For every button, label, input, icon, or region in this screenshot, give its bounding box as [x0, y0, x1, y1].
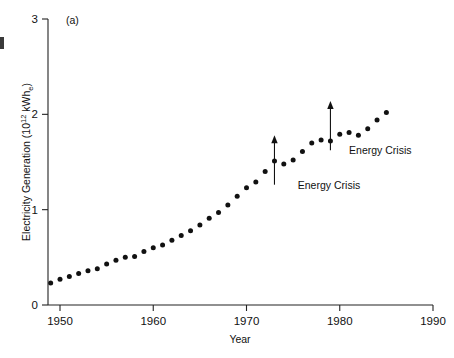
x-tick-label: 1970 — [234, 315, 260, 327]
data-point — [356, 133, 361, 138]
data-point — [188, 228, 193, 233]
data-point — [291, 158, 296, 163]
data-point — [253, 180, 258, 185]
data-point — [197, 222, 202, 227]
x-tick-label: 1980 — [327, 315, 353, 327]
data-point — [179, 233, 184, 238]
x-tick-label: 1960 — [140, 315, 166, 327]
data-point — [151, 245, 156, 250]
x-tick-label: 1990 — [420, 315, 446, 327]
data-point — [281, 161, 286, 166]
data-point — [141, 249, 146, 254]
data-point — [95, 266, 100, 271]
panel-label: (a) — [66, 14, 79, 26]
data-point — [235, 194, 240, 199]
scatter-chart: 0123 19501960197019801990 Electricity Ge… — [0, 0, 454, 358]
data-point — [244, 185, 249, 190]
y-tick-label: 2 — [32, 108, 38, 120]
x-tick-label: 1950 — [47, 315, 73, 327]
data-point — [263, 169, 268, 174]
data-point — [216, 210, 221, 215]
data-point — [48, 281, 53, 286]
data-point — [160, 242, 165, 247]
data-point — [319, 138, 324, 143]
y-tick-label: 1 — [32, 204, 38, 216]
data-point — [169, 238, 174, 243]
y-tick-label: 3 — [32, 13, 38, 25]
data-point — [337, 132, 342, 137]
x-axis-title: Year — [229, 333, 251, 345]
data-point — [375, 118, 380, 123]
data-point — [300, 149, 305, 154]
annotation-label: Energy Crisis — [349, 144, 411, 156]
y-tick-label: 0 — [32, 299, 38, 311]
data-point — [207, 216, 212, 221]
data-point — [58, 277, 63, 282]
data-point — [104, 262, 109, 267]
data-point — [113, 258, 118, 263]
page-edge-mark — [0, 37, 4, 49]
data-point — [132, 254, 137, 259]
data-point — [67, 274, 72, 279]
data-point — [365, 126, 370, 131]
annotation-label: Energy Crisis — [298, 179, 360, 191]
data-point — [384, 110, 389, 115]
figure-panel: 0123 19501960197019801990 Electricity Ge… — [0, 0, 454, 358]
data-point — [123, 255, 128, 260]
data-point — [347, 130, 352, 135]
data-point — [225, 202, 230, 207]
chart-background — [0, 0, 454, 358]
data-point — [76, 271, 81, 276]
data-point — [309, 140, 314, 145]
data-point — [85, 268, 90, 273]
